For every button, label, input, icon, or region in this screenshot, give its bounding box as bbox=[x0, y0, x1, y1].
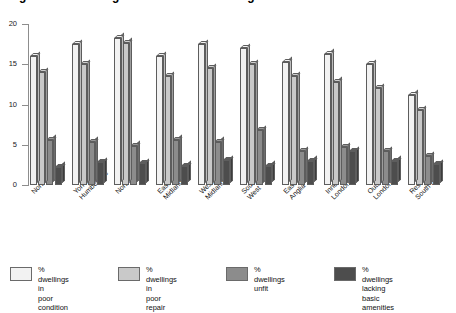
y-axis-tick-label: 0 bbox=[0, 181, 17, 189]
bar-side bbox=[205, 39, 208, 182]
bar bbox=[72, 44, 79, 185]
bar-side bbox=[373, 59, 376, 182]
bar-face bbox=[240, 48, 247, 185]
bar-side bbox=[381, 83, 384, 182]
bar-group bbox=[156, 24, 198, 185]
y-axis-tick bbox=[22, 185, 28, 186]
legend-swatch bbox=[226, 267, 248, 281]
bar-side bbox=[297, 71, 300, 182]
legend-label: % dwellings lacking basic amenities bbox=[362, 265, 394, 313]
bar-side bbox=[423, 105, 426, 182]
bar-group bbox=[72, 24, 114, 185]
bar-group bbox=[240, 24, 282, 185]
bar-group bbox=[408, 24, 450, 185]
bar-group bbox=[324, 24, 366, 185]
y-axis-tick-label: 10 bbox=[0, 101, 17, 109]
bar-side bbox=[339, 77, 342, 183]
bar-face bbox=[72, 44, 79, 185]
bar-side bbox=[415, 90, 418, 183]
bar-face bbox=[30, 56, 37, 185]
bar-side bbox=[137, 141, 140, 183]
bar-side bbox=[163, 51, 166, 182]
bar-side bbox=[356, 146, 359, 182]
bar-side bbox=[121, 33, 124, 183]
bar-side bbox=[79, 39, 82, 182]
bar-side bbox=[171, 71, 174, 182]
bar-side bbox=[95, 137, 98, 183]
bar-side bbox=[53, 135, 56, 183]
bar bbox=[156, 56, 163, 185]
legend-swatch bbox=[10, 267, 32, 281]
bar-side bbox=[347, 142, 350, 182]
y-axis-tick-label: 5 bbox=[0, 141, 17, 149]
bar-side bbox=[331, 49, 334, 183]
bar-side bbox=[37, 51, 40, 182]
bar-side bbox=[255, 59, 258, 182]
bar bbox=[114, 38, 121, 185]
bar-side bbox=[87, 59, 90, 182]
bar-side bbox=[247, 43, 250, 182]
bar-side bbox=[45, 67, 48, 182]
legend-swatch bbox=[334, 267, 356, 281]
bar-face bbox=[366, 64, 373, 185]
y-axis-tick-label: 15 bbox=[0, 60, 17, 68]
plot-area bbox=[28, 24, 448, 185]
legend-label: % dwellings in poor repair bbox=[146, 265, 177, 313]
y-axis-tick-label: 20 bbox=[0, 20, 17, 28]
bar-face bbox=[198, 44, 205, 185]
bar bbox=[198, 44, 205, 185]
bar-face bbox=[408, 95, 415, 185]
legend-label: % dwellings unfit bbox=[254, 265, 285, 294]
bar-side bbox=[263, 125, 266, 182]
bar-face bbox=[324, 54, 331, 185]
bar-group bbox=[366, 24, 408, 185]
chart-title: Figure 1.4 Housing conditions in each re… bbox=[8, 0, 274, 3]
legend-label: % dwellings in poor condition bbox=[38, 265, 69, 313]
bar-side bbox=[305, 146, 308, 182]
bar-group bbox=[282, 24, 324, 185]
bar-group bbox=[30, 24, 72, 185]
bar-side bbox=[431, 151, 434, 182]
legend-swatch bbox=[118, 267, 140, 281]
bar bbox=[324, 54, 331, 185]
bar-side bbox=[213, 63, 216, 182]
bar-side bbox=[289, 57, 292, 183]
bar-group bbox=[114, 24, 156, 185]
bar bbox=[282, 62, 289, 185]
bar bbox=[240, 48, 247, 185]
bar bbox=[408, 95, 415, 185]
bar bbox=[30, 56, 37, 185]
bar-side bbox=[389, 146, 392, 182]
bar bbox=[366, 64, 373, 185]
bar-face bbox=[282, 62, 289, 185]
bar-face bbox=[156, 56, 163, 185]
bar-side bbox=[179, 135, 182, 183]
bar-face bbox=[114, 38, 121, 185]
bar-side bbox=[221, 137, 224, 183]
bar-side bbox=[129, 37, 132, 182]
bar-group bbox=[198, 24, 240, 185]
chart-legend: % dwellings in poor condition% dwellings… bbox=[10, 265, 456, 291]
